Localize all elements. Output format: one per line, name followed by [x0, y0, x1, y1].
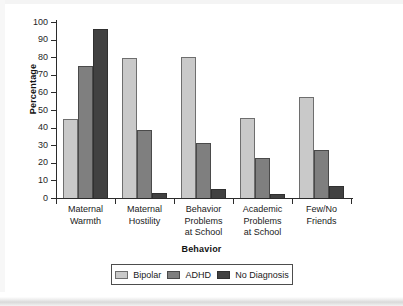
bar-chart-figure: Percentage 0102030405060708090100 Matern…	[0, 0, 403, 306]
x-category-label-5: Few/NoFriends	[286, 204, 358, 227]
legend-item-no-diagnosis[interactable]: No Diagnosis	[217, 270, 289, 280]
bar-bipolar-group-5	[299, 97, 314, 198]
bar-adhd-group-5	[314, 150, 329, 198]
y-tick-label-80: 80	[22, 53, 48, 62]
bar-bipolar-group-2	[122, 58, 137, 198]
y-tick-label-90: 90	[22, 35, 48, 44]
legend-swatch-no-diagnosis	[217, 271, 230, 279]
scan-artifact-bottom	[0, 292, 403, 306]
bar-no-diagnosis-group-5	[329, 186, 344, 198]
bar-no-diagnosis-group-2	[152, 193, 167, 198]
bar-bipolar-group-3	[181, 57, 196, 198]
y-tick-label-10: 10	[22, 176, 48, 185]
plot-area	[56, 22, 351, 198]
bar-adhd-group-1	[78, 66, 93, 198]
y-tick-label-30: 30	[22, 141, 48, 150]
legend-swatch-bipolar	[115, 271, 128, 279]
bar-no-diagnosis-group-1	[93, 29, 108, 198]
bar-adhd-group-2	[137, 130, 152, 198]
y-tick-label-0: 0	[22, 194, 48, 203]
y-tick-label-50: 50	[22, 106, 48, 115]
bar-adhd-group-3	[196, 143, 211, 198]
x-axis-line	[56, 198, 353, 199]
bar-bipolar-group-4	[240, 118, 255, 198]
y-tick-label-20: 20	[22, 158, 48, 167]
legend-swatch-adhd	[167, 271, 180, 279]
y-tick-label-70: 70	[22, 70, 48, 79]
bar-bipolar-group-1	[63, 119, 78, 198]
legend-item-adhd[interactable]: ADHD	[167, 270, 211, 280]
chart-legend: BipolarADHDNo Diagnosis	[111, 264, 293, 285]
legend-item-bipolar[interactable]: Bipolar	[115, 270, 161, 280]
y-tick-label-100: 100	[22, 18, 48, 27]
y-tick-label-60: 60	[22, 88, 48, 97]
bar-no-diagnosis-group-3	[211, 189, 226, 198]
bar-adhd-group-4	[255, 158, 270, 198]
legend-label: Bipolar	[133, 270, 161, 280]
legend-label: No Diagnosis	[235, 270, 289, 280]
x-axis-title: Behavior	[0, 244, 403, 254]
legend-label: ADHD	[185, 270, 211, 280]
bar-no-diagnosis-group-4	[270, 194, 285, 198]
y-tick-label-40: 40	[22, 123, 48, 132]
